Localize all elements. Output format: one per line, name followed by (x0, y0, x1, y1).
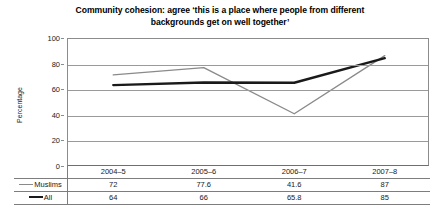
table-column-header: 2005–6 (159, 166, 250, 179)
table-column-header: 2007–8 (340, 166, 431, 179)
legend-item-muslims: Muslims (14, 179, 68, 192)
table-header-row: 2004–52005–62006–72007–8 (14, 166, 430, 179)
data-table: 2004–52005–62006–72007–8Muslims7277.641.… (14, 166, 430, 205)
table-row: Muslims7277.641.687 (14, 179, 430, 192)
y-axis-tick-labels: 020406080100 (0, 38, 64, 166)
table-row: All646665.885 (14, 192, 430, 205)
series-lines (68, 39, 430, 167)
table-column-header: 2006–7 (249, 166, 340, 179)
table-cell: 65.8 (249, 192, 340, 205)
legend-item-all: All (14, 192, 68, 205)
gridline (68, 116, 428, 117)
table-cell: 72 (68, 179, 159, 192)
chart-figure: Community cohesion: agree ‘this is a pla… (0, 0, 439, 214)
y-axis-tick-mark (61, 140, 64, 141)
y-axis-tick-label: 80 (52, 59, 60, 68)
table-cell: 41.6 (249, 179, 340, 192)
plot-area (67, 38, 429, 166)
table-corner-cell (14, 166, 68, 179)
chart-title-line-2: backgrounds get on well together’ (151, 17, 290, 27)
legend-line-swatch-icon (29, 196, 43, 198)
data-table-body: 2004–52005–62006–72007–8Muslims7277.641.… (14, 166, 430, 205)
y-axis-tick-mark (61, 64, 64, 65)
y-axis-tick-mark (61, 38, 64, 39)
y-axis-tick-label: 60 (52, 85, 60, 94)
table-cell: 85 (340, 192, 431, 205)
legend-item-label: Muslims (34, 180, 62, 189)
table-column-header: 2004–5 (68, 166, 159, 179)
table-cell: 87 (340, 179, 431, 192)
chart-title: Community cohesion: agree ‘this is a pla… (60, 5, 380, 28)
table-cell: 64 (68, 192, 159, 205)
y-axis-tick-label: 100 (47, 34, 60, 43)
table-cell: 77.6 (159, 179, 250, 192)
y-axis-tick-label: 20 (52, 136, 60, 145)
table-cell: 66 (159, 192, 250, 205)
y-axis-tick-label: 40 (52, 110, 60, 119)
gridline (68, 141, 428, 142)
gridline (68, 65, 428, 66)
y-axis-tick-mark (61, 89, 64, 90)
legend-line-swatch-icon (19, 184, 33, 185)
gridline (68, 90, 428, 91)
legend-item-label: All (44, 193, 52, 202)
chart-title-line-1: Community cohesion: agree ‘this is a pla… (76, 5, 365, 15)
y-axis-tick-mark (61, 115, 64, 116)
